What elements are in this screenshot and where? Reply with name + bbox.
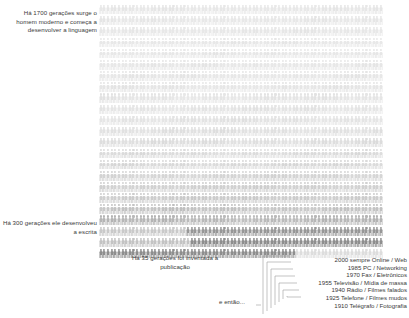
person-legs-gap [304,89,305,92]
person-legs-gap [129,122,130,125]
person-legs-gap [362,111,363,114]
person-legs-gap [184,67,185,70]
person-legs-gap [268,133,269,136]
person-legs-gap [173,200,174,203]
person-legs-gap [133,11,134,14]
person-legs-gap [261,166,262,169]
person-legs-gap [341,233,342,236]
person-legs-gap [133,211,134,214]
person-legs-gap [275,133,276,136]
person-legs-gap [282,211,283,214]
person-legs-gap [111,222,112,225]
person-legs-gap [282,244,283,247]
person-legs-gap [126,67,127,70]
figure-row [99,92,405,103]
person-legs-gap [108,67,109,70]
person-legs-gap [148,155,149,158]
person-legs-gap [242,233,243,236]
person-legs-gap [206,178,207,181]
person-legs-gap [188,78,189,81]
person-legs-gap [104,78,105,81]
person-legs-gap [282,78,283,81]
person-legs-gap [304,111,305,114]
person-legs-gap [242,67,243,70]
person-legs-gap [195,11,196,14]
person-legs-gap [239,222,240,225]
person-legs-gap [166,78,167,81]
person-legs-gap [286,144,287,147]
person-legs-gap [362,11,363,14]
person-legs-gap [108,22,109,25]
person-legs-gap [191,78,192,81]
person-legs-gap [100,100,101,103]
person-legs-gap [301,100,302,103]
person-legs-gap [210,67,211,70]
person-legs-gap [104,233,105,236]
person-legs-gap [144,233,145,236]
person-legs-gap [100,155,101,158]
person-legs-gap [326,89,327,92]
person-icon [379,204,382,213]
person-legs-gap [224,122,225,125]
person-legs-gap [231,44,232,47]
person-legs-gap [366,200,367,203]
person-legs-gap [337,244,338,247]
person-legs-gap [279,189,280,192]
person-legs-gap [319,22,320,25]
person-legs-gap [220,11,221,14]
person-legs-gap [137,155,138,158]
person-legs-gap [180,189,181,192]
person-legs-gap [213,78,214,81]
person-legs-gap [246,244,247,247]
person-legs-gap [151,111,152,114]
person-legs-gap [228,211,229,214]
person-legs-gap [210,78,211,81]
person-legs-gap [155,211,156,214]
person-legs-gap [151,22,152,25]
person-legs-gap [111,189,112,192]
person-legs-gap [180,11,181,14]
person-legs-gap [355,89,356,92]
person-legs-gap [271,200,272,203]
person-legs-gap [140,144,141,147]
person-legs-gap [290,166,291,169]
person-legs-gap [115,67,116,70]
person-legs-gap [177,89,178,92]
person-legs-gap [115,222,116,225]
person-legs-gap [297,244,298,247]
person-legs-gap [286,233,287,236]
person-legs-gap [231,100,232,103]
person-legs-gap [137,22,138,25]
person-legs-gap [148,111,149,114]
person-legs-gap [308,189,309,192]
person-legs-gap [126,166,127,169]
person-legs-gap [210,11,211,14]
person-legs-gap [355,55,356,58]
person-legs-gap [355,144,356,147]
person-legs-gap [137,89,138,92]
person-legs-gap [315,222,316,225]
person-legs-gap [377,89,378,92]
person-legs-gap [381,178,382,181]
person-legs-gap [293,44,294,47]
person-legs-gap [235,100,236,103]
person-legs-gap [220,211,221,214]
person-legs-gap [315,200,316,203]
person-legs-gap [180,44,181,47]
person-legs-gap [322,144,323,147]
person-legs-gap [177,22,178,25]
person-legs-gap [250,33,251,36]
person-legs-gap [373,89,374,92]
person-legs-gap [242,133,243,136]
person-legs-gap [312,44,313,47]
person-legs-gap [115,233,116,236]
person-legs-gap [344,78,345,81]
person-legs-gap [304,67,305,70]
person-legs-gap [352,233,353,236]
person-legs-gap [173,233,174,236]
person-legs-gap [341,11,342,14]
person-legs-gap [191,122,192,125]
person-legs-gap [119,22,120,25]
person-legs-gap [177,133,178,136]
person-legs-gap [162,144,163,147]
